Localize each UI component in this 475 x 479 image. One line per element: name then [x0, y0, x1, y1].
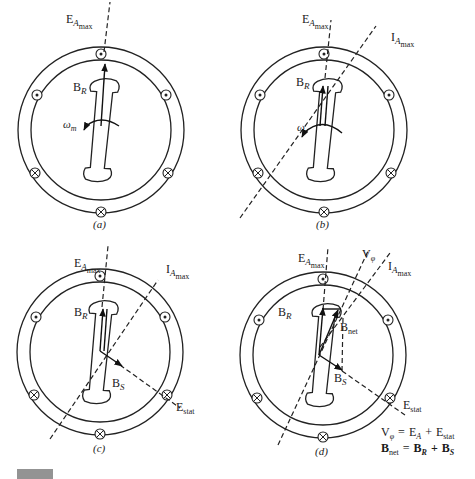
conductor-dot-icon — [255, 90, 265, 100]
estat-axis — [342, 371, 405, 415]
conductor-cross-icon — [96, 207, 106, 217]
conductor-cross-icon — [319, 207, 329, 217]
rotor-pole — [83, 78, 120, 183]
omega-m-label: ωm — [63, 118, 77, 133]
conductor-cross-icon — [253, 168, 263, 178]
conductor-dot-icon — [254, 315, 264, 325]
conductor-cross-icon — [163, 168, 173, 178]
equation-bnet: Bnet=BR+BS — [381, 441, 455, 457]
estat-label-c: Estat — [176, 400, 195, 416]
br-label-d: BR — [278, 305, 292, 321]
estat-label-d: Estat — [403, 398, 422, 414]
omega-label: ω — [297, 121, 305, 133]
ia-max-label-d: IAmax — [388, 259, 411, 278]
conductor-dot-icon — [161, 90, 171, 100]
conductor-cross-icon — [95, 429, 105, 439]
bs-label-c: BS — [112, 376, 125, 392]
panel-label-b: (b) — [316, 218, 329, 231]
ia-max-label-b: IAmax — [391, 30, 414, 49]
conductor-dot-icon — [318, 274, 328, 284]
conductor-cross-icon — [29, 390, 39, 400]
conductor-cross-icon — [30, 168, 40, 178]
conductor-dot-icon — [160, 312, 170, 322]
equation-vphi: Vφ=EA+Estat — [381, 425, 455, 441]
panel-label-d: (d) — [315, 445, 328, 458]
br-label-c: BR — [74, 305, 88, 321]
panel-d — [240, 247, 406, 445]
ea-max-label-b: EAmax — [302, 12, 329, 31]
ea-max-axis — [104, 2, 110, 52]
conductor-dot-icon — [384, 90, 394, 100]
synchronous-generator-figure: EAmax BR ωm (a) EAmax IAmax BR ω (b) — [0, 0, 475, 479]
ea-max-label-d: EAmax — [298, 251, 325, 270]
conductor-dot-icon — [383, 315, 393, 325]
panel-a — [18, 2, 184, 217]
ea-max-label-a: EAmax — [66, 12, 93, 31]
panel-label-a: (a) — [93, 218, 106, 231]
conductor-cross-icon — [385, 393, 395, 403]
panel-b — [240, 20, 407, 218]
vphi-label-d: Vφ — [362, 247, 376, 263]
conductor-cross-icon — [318, 432, 328, 442]
conductor-cross-icon — [252, 393, 262, 403]
conductor-dot-icon — [32, 90, 42, 100]
bnet-label-d: Bnet — [340, 320, 359, 336]
rotation-arrow-icon — [302, 133, 304, 137]
conductor-cross-icon — [386, 168, 396, 178]
ia-max-label-c: IAmax — [166, 262, 189, 281]
ia-max-axis — [240, 26, 376, 218]
panel-label-c: (c) — [93, 442, 106, 455]
br-label-b: BR — [296, 75, 310, 91]
conductor-dot-icon — [31, 312, 41, 322]
br-label-a: BR — [73, 80, 87, 96]
figure-caption-fragment: FIGURE — [17, 469, 53, 479]
rotation-arrow-icon — [84, 126, 86, 130]
